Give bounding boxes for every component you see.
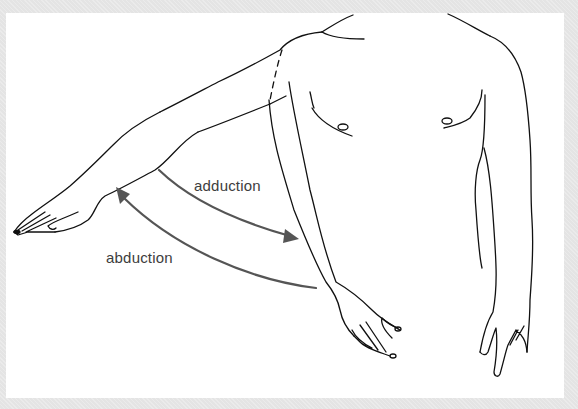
- adduction-label: adduction: [194, 177, 261, 194]
- abduction-label: abduction: [106, 249, 173, 266]
- left-deltoid-dashed: [270, 50, 282, 100]
- left-armpit-line-2: [270, 96, 286, 104]
- hanging-hand: [352, 318, 398, 356]
- hanging-arm-inner: [289, 82, 400, 330]
- left-hand-fingers: [14, 212, 78, 235]
- left-arm-lower-contour: [55, 132, 198, 232]
- right-shoulder-outline: [490, 36, 533, 352]
- diagram-panel: adduction abduction: [6, 13, 564, 398]
- right-arm-inner-contour: [475, 95, 485, 268]
- clavicle-left: [322, 32, 364, 39]
- hanging-arm-outer: [269, 100, 354, 336]
- right-pec-line: [444, 90, 482, 128]
- body-figure-illustration: [6, 13, 564, 398]
- adduction-arrowhead-icon: [283, 229, 299, 243]
- left-nipple: [338, 124, 348, 130]
- neck-right-outline: [448, 14, 490, 36]
- right-arm-inner-2: [480, 148, 496, 352]
- left-fingernail: [14, 231, 20, 234]
- hanging-hand-nail-2: [390, 354, 396, 358]
- left-armpit-line: [198, 104, 270, 132]
- right-nipple: [442, 118, 452, 124]
- left-shoulder-outline: [160, 32, 322, 112]
- right-hand: [480, 326, 527, 376]
- neck-left-outline: [322, 15, 353, 32]
- left-arm-upper-contour: [14, 112, 160, 232]
